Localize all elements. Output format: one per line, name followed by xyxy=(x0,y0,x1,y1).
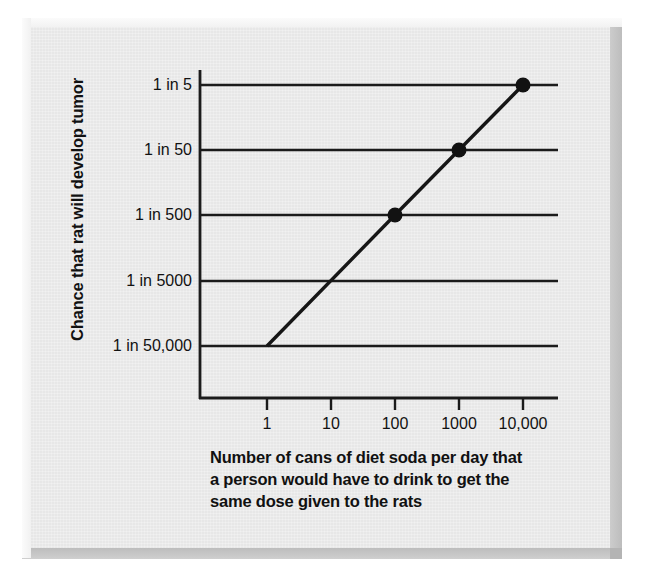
gridlines xyxy=(200,85,558,346)
x-axis-title-line-3: same dose given to the rats xyxy=(210,491,610,513)
chart-figure: Chance that rat will develop tumor 1 in … xyxy=(0,0,645,578)
x-axis-title-line-1: Number of cans of diet soda per day that xyxy=(210,447,610,469)
data-point-10000 xyxy=(516,78,531,93)
x-tick-label-1: 10 xyxy=(322,415,340,433)
data-point-1000 xyxy=(452,143,467,158)
x-tick-label-4: 10,000 xyxy=(499,415,548,433)
x-tick-label-0: 1 xyxy=(263,415,272,433)
x-axis-title-line-2: a person would have to drink to get the xyxy=(210,469,610,491)
x-axis-ticks xyxy=(267,398,523,410)
x-axis-title: Number of cans of diet soda per day that… xyxy=(210,447,610,513)
x-tick-label-3: 1000 xyxy=(441,415,477,433)
figure-page: Chance that rat will develop tumor 1 in … xyxy=(0,0,645,578)
data-point-100 xyxy=(388,208,403,223)
x-tick-label-2: 100 xyxy=(382,415,409,433)
